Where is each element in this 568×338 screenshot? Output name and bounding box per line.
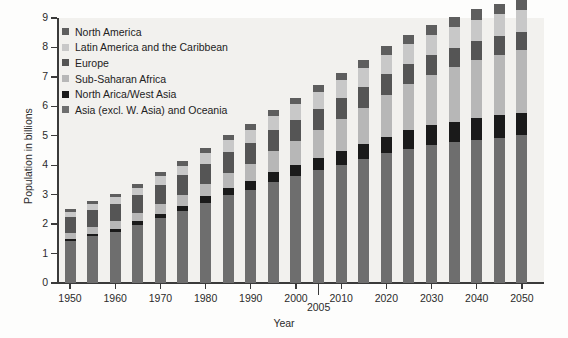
bar-segment xyxy=(290,141,301,165)
bar-segment xyxy=(290,165,301,176)
y-axis-tick-label: 0 xyxy=(28,276,48,288)
bar-segment xyxy=(245,143,256,164)
bar-segment xyxy=(155,218,166,283)
bar-segment xyxy=(516,135,527,283)
bar-1960 xyxy=(110,194,121,283)
bar-2045 xyxy=(494,4,505,283)
bar-segment xyxy=(403,64,414,84)
x-axis-tick xyxy=(341,283,342,289)
bar-segment xyxy=(471,41,482,60)
legend-item-label: North America xyxy=(75,26,142,38)
bar-segment xyxy=(65,239,76,242)
chart-figure: 0123456789 Population in billions 195019… xyxy=(0,0,568,338)
x-axis-tick-label: 1950 xyxy=(50,292,90,304)
bar-segment xyxy=(313,170,324,283)
bar-segment xyxy=(336,80,347,97)
bar-segment xyxy=(471,60,482,118)
bar-segment xyxy=(177,175,188,195)
bar-segment xyxy=(494,36,505,55)
bar-segment xyxy=(223,135,234,140)
bar-segment xyxy=(268,172,279,182)
bar-segment xyxy=(65,209,76,212)
bar-segment xyxy=(223,173,234,188)
bar-segment xyxy=(403,84,414,131)
x-axis-tick-label: 2040 xyxy=(457,292,497,304)
bar-segment xyxy=(516,50,527,112)
bar-segment xyxy=(87,227,98,233)
bar-segment xyxy=(426,145,437,283)
legend-item-label: Latin America and the Caribbean xyxy=(75,41,228,53)
x-axis-tick xyxy=(115,283,116,289)
bar-segment xyxy=(268,151,279,172)
bar-segment xyxy=(155,204,166,213)
bar-segment xyxy=(200,148,211,153)
legend-swatch-icon xyxy=(62,59,69,66)
bar-segment xyxy=(403,44,414,64)
bar-segment xyxy=(245,190,256,283)
bar-segment xyxy=(494,55,505,116)
bar-segment xyxy=(381,46,392,55)
x-axis-tick xyxy=(476,283,477,289)
legend-item: North Arica/West Asia xyxy=(62,86,228,102)
x-axis-tick-label: 2030 xyxy=(412,292,452,304)
bar-segment xyxy=(313,158,324,170)
bar-2040 xyxy=(471,9,482,283)
bar-segment xyxy=(336,73,347,81)
bar-segment xyxy=(426,125,437,145)
bar-segment xyxy=(290,104,301,119)
bar-segment xyxy=(110,221,121,228)
legend-item: Sub-Saharan Africa xyxy=(62,71,228,87)
bar-segment xyxy=(110,204,121,222)
bar-1970 xyxy=(155,172,166,283)
bar-segment xyxy=(471,140,482,283)
bar-segment xyxy=(177,166,188,175)
bar-segment xyxy=(449,17,460,27)
x-axis-extra-tick-2005 xyxy=(318,283,319,295)
x-axis-tick-label: 1970 xyxy=(140,292,180,304)
bar-segment xyxy=(358,60,369,68)
bar-segment xyxy=(290,120,301,141)
bar-2035 xyxy=(449,17,460,283)
bar-1980 xyxy=(200,148,211,283)
bar-segment xyxy=(358,108,369,145)
bar-segment xyxy=(516,0,527,10)
bar-1990 xyxy=(245,124,256,283)
bar-2025 xyxy=(403,35,414,283)
bar-1985 xyxy=(223,135,234,283)
bar-segment xyxy=(223,195,234,283)
bar-2020 xyxy=(381,46,392,283)
x-axis-tick xyxy=(160,283,161,289)
bar-segment xyxy=(358,159,369,283)
bar-segment xyxy=(290,176,301,283)
bar-segment xyxy=(449,122,460,143)
bar-segment xyxy=(177,211,188,283)
bar-segment xyxy=(87,204,98,210)
bar-segment xyxy=(177,195,188,206)
bar-segment xyxy=(155,172,166,176)
bar-segment xyxy=(313,92,324,108)
bar-segment xyxy=(200,164,211,184)
bar-segment xyxy=(87,210,98,227)
bar-segment xyxy=(223,140,234,152)
bar-segment xyxy=(110,194,121,198)
bar-1995 xyxy=(268,110,279,283)
legend-item-label: Asia (excl. W. Asia) and Oceania xyxy=(75,104,227,116)
legend-item: Latin America and the Caribbean xyxy=(62,40,228,56)
x-axis-tick xyxy=(431,283,432,289)
bar-2050 xyxy=(516,0,527,283)
y-axis-tick-label: 1 xyxy=(28,247,48,259)
bar-segment xyxy=(336,119,347,151)
bar-segment xyxy=(87,234,98,237)
bar-segment xyxy=(200,184,211,197)
bar-2015 xyxy=(358,60,369,283)
bar-segment xyxy=(516,10,527,32)
legend-item: North America xyxy=(62,24,228,40)
bar-segment xyxy=(177,161,188,165)
bar-segment xyxy=(245,124,256,130)
bar-segment xyxy=(200,153,211,164)
bar-segment xyxy=(132,213,143,221)
bar-segment xyxy=(132,221,143,225)
bar-segment xyxy=(516,32,527,50)
bar-segment xyxy=(132,184,143,188)
bar-1950 xyxy=(65,209,76,283)
